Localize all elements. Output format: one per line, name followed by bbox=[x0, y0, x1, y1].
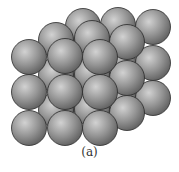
sphere-front bbox=[12, 75, 47, 110]
sphere-front bbox=[48, 75, 83, 110]
sphere-front bbox=[12, 40, 47, 75]
sphere-front bbox=[83, 75, 118, 110]
spheres-group bbox=[12, 8, 171, 146]
sphere-front bbox=[12, 111, 47, 146]
sphere-front bbox=[83, 111, 118, 146]
sphere-front bbox=[48, 39, 83, 74]
figure-caption: (a) bbox=[0, 145, 179, 159]
sphere-front bbox=[48, 111, 83, 146]
sphere-front bbox=[83, 40, 118, 75]
